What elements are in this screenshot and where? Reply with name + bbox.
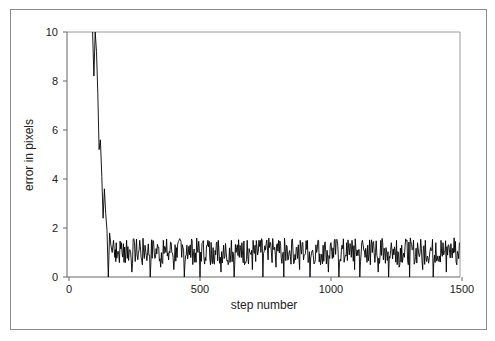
error-series-line [93,32,460,277]
y-tick-label: 10 [46,26,58,38]
x-tick-label: 1000 [319,283,343,295]
y-tick-label: 4 [52,173,58,185]
y-ticks: 0246810 [46,26,67,283]
y-tick-label: 8 [52,75,58,87]
x-tick-label: 1500 [450,283,474,295]
plot-area [67,32,460,277]
x-axis-title: step number [231,298,298,312]
error-chart: 0246810 050010001500 step number error i… [0,0,495,341]
x-ticks: 050010001500 [66,277,474,295]
y-tick-label: 2 [52,222,58,234]
axes [67,32,460,277]
x-tick-label: 500 [191,283,209,295]
y-axis-title: error in pixels [22,119,36,191]
x-tick-label: 0 [66,283,72,295]
y-tick-label: 0 [52,271,58,283]
y-tick-label: 6 [52,124,58,136]
